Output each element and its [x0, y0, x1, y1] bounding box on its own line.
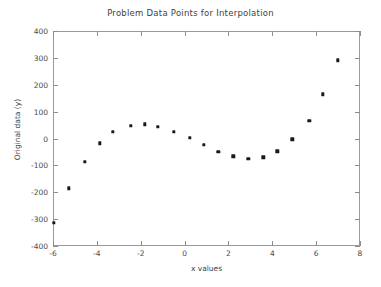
x-axis-tick-label: 4	[270, 249, 275, 258]
y-axis-tick-right	[355, 219, 360, 220]
data-point	[217, 150, 220, 153]
chart-figure: Problem Data Points for Interpolation Or…	[0, 0, 381, 287]
data-point	[290, 138, 293, 141]
y-axis-tick-right	[355, 85, 360, 86]
x-axis-tick-label: -4	[93, 249, 100, 258]
y-axis-tick-right	[355, 139, 360, 140]
y-axis-tick-label: -100	[31, 161, 48, 170]
x-axis-tick	[360, 241, 361, 246]
x-axis-tick-top	[272, 31, 273, 36]
x-axis-tick-label: 0	[182, 249, 187, 258]
y-axis-tick-label: -300	[31, 215, 48, 224]
x-axis-tick-top	[228, 31, 229, 36]
x-axis-tick-top	[316, 31, 317, 36]
data-point	[321, 93, 324, 96]
x-axis-tick-label: 2	[226, 249, 231, 258]
data-point	[172, 130, 175, 133]
y-axis-tick	[53, 192, 58, 193]
data-point	[262, 156, 265, 159]
data-point	[188, 136, 191, 139]
y-axis-tick-label: 100	[34, 107, 48, 116]
y-axis-tick-right	[355, 112, 360, 113]
x-axis-tick-top	[185, 31, 186, 36]
data-point	[129, 124, 132, 127]
data-point	[336, 59, 339, 62]
x-axis-tick-top	[141, 31, 142, 36]
x-axis-tick	[272, 241, 273, 246]
x-axis-tick-top	[97, 31, 98, 36]
y-axis-tick-right	[355, 165, 360, 166]
y-axis-tick-label: -200	[31, 188, 48, 197]
y-axis-tick	[53, 165, 58, 166]
chart-title: Problem Data Points for Interpolation	[0, 8, 381, 18]
data-point	[202, 143, 205, 146]
data-point	[111, 130, 114, 133]
x-axis-tick-label: -2	[137, 249, 144, 258]
y-axis-title: Original data (y)	[13, 70, 22, 190]
x-axis-tick	[97, 241, 98, 246]
data-point	[143, 122, 146, 125]
y-axis-tick	[53, 139, 58, 140]
y-axis-tick-label: 400	[34, 27, 48, 36]
y-axis-tick	[53, 246, 58, 247]
x-axis-tick	[53, 241, 54, 246]
y-axis-tick-right	[355, 58, 360, 59]
x-axis-tick-label: 8	[358, 249, 363, 258]
data-point	[308, 119, 311, 122]
y-axis-tick	[53, 58, 58, 59]
x-axis-tick-top	[53, 31, 54, 36]
y-axis-tick-right	[355, 192, 360, 193]
y-axis-tick	[53, 219, 58, 220]
x-axis-tick	[316, 241, 317, 246]
x-axis-tick-label: 6	[314, 249, 319, 258]
x-axis-tick-top	[360, 31, 361, 36]
x-axis-tick	[228, 241, 229, 246]
y-axis-tick	[53, 112, 58, 113]
y-axis-tick-label: -400	[31, 242, 48, 251]
data-point	[247, 157, 250, 160]
plot-area	[53, 31, 360, 246]
data-point	[232, 155, 235, 158]
x-axis-tick	[141, 241, 142, 246]
x-axis-tick-label: -6	[49, 249, 56, 258]
y-axis-tick-right	[355, 246, 360, 247]
scatter-points-layer	[54, 32, 359, 245]
y-axis-tick	[53, 85, 58, 86]
data-point	[98, 142, 101, 145]
y-axis-tick-label: 0	[43, 134, 48, 143]
data-point	[67, 186, 70, 189]
y-axis-tick-label: 200	[34, 80, 48, 89]
data-point	[156, 125, 159, 128]
y-axis-tick-label: 300	[34, 53, 48, 62]
x-axis-title: x values	[53, 264, 360, 273]
data-point	[52, 221, 55, 224]
data-point	[83, 160, 86, 163]
x-axis-tick	[185, 241, 186, 246]
data-point	[276, 150, 279, 153]
